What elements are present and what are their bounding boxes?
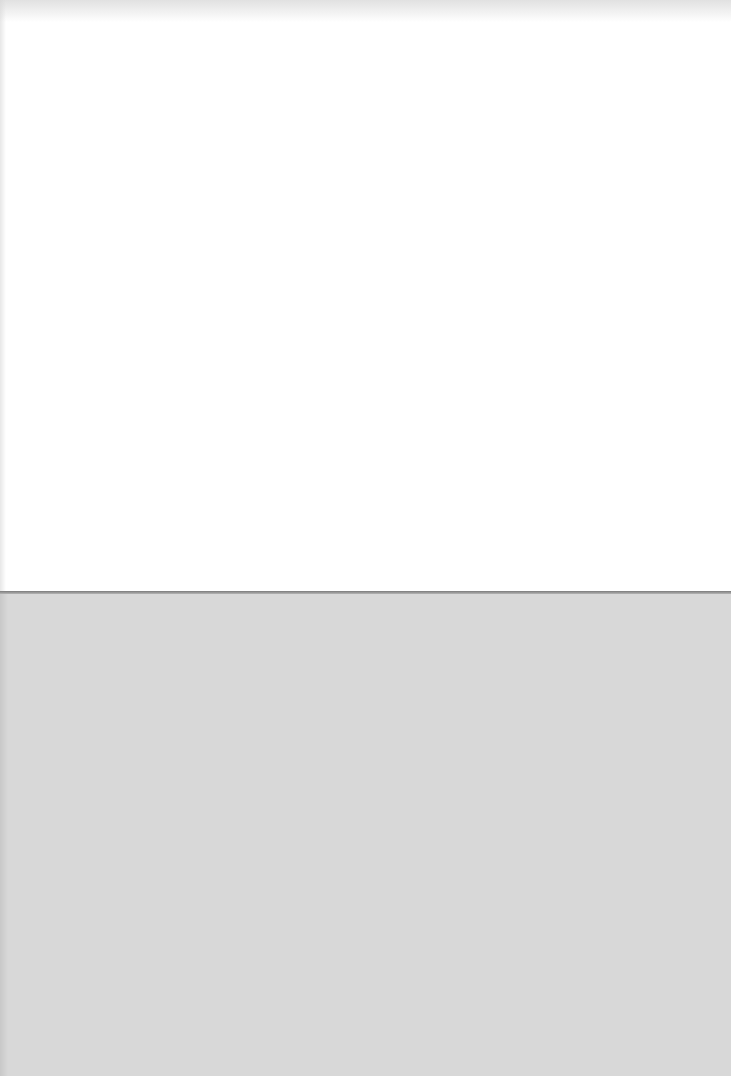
backing-shadow-left: [0, 594, 8, 1076]
blank-paper-page: [0, 0, 731, 591]
scan-shadow-left: [0, 0, 6, 591]
grey-backing-sheet: [0, 594, 731, 1076]
scan-bleed-through-top: [0, 0, 731, 22]
